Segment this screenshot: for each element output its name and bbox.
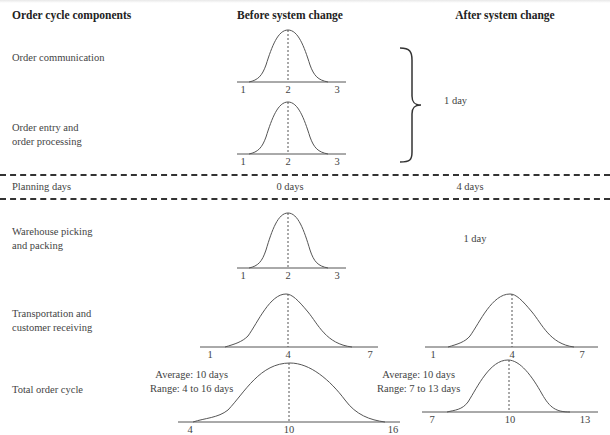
tick-label: 3	[334, 84, 339, 95]
brace-icon	[400, 48, 421, 162]
tick-label: 1	[430, 349, 435, 360]
tick-label: 4	[285, 349, 290, 360]
tick-label: 2	[285, 84, 290, 95]
tick-label: 7	[579, 349, 584, 360]
tick-label: 4	[187, 424, 192, 435]
tick-label: 10	[284, 424, 295, 435]
tick-label: 2	[285, 270, 290, 281]
distribution-curves	[0, 0, 610, 435]
curve-transport-before	[200, 294, 378, 347]
tick-label: 7	[367, 349, 372, 360]
curve-total-before	[178, 363, 400, 422]
tick-label: 3	[334, 270, 339, 281]
tick-label: 1	[240, 270, 245, 281]
tick-label: 7	[429, 414, 434, 425]
curve-order-entry	[237, 102, 346, 154]
tick-label: 4	[509, 349, 514, 360]
curve-transport-after	[425, 294, 598, 347]
tick-label: 1	[207, 349, 212, 360]
tick-label: 13	[580, 414, 591, 425]
tick-label: 1	[240, 84, 245, 95]
curve-order-communication	[237, 30, 346, 82]
tick-label: 16	[388, 424, 399, 435]
tick-label: 10	[505, 414, 516, 425]
curve-total-after	[422, 360, 598, 412]
tick-label: 3	[334, 156, 339, 167]
tick-label: 1	[240, 156, 245, 167]
tick-label: 2	[285, 156, 290, 167]
curve-warehouse	[237, 213, 346, 268]
